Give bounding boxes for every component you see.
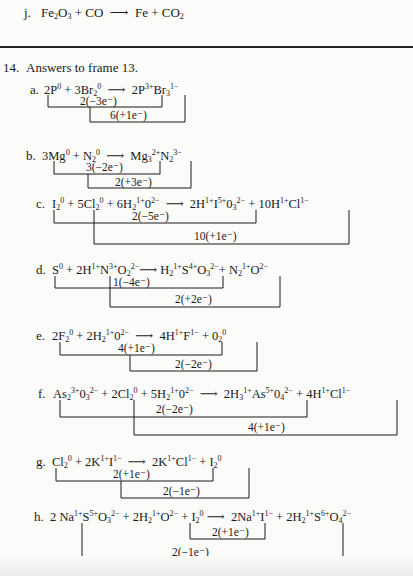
answer-g-equation: Cl20 + 2K1+I1− ⟶ 2K1+Cl1− + I20 [52, 455, 222, 469]
answer-g-bracket-1-label: 2(+1e⁻) [113, 468, 150, 480]
answer-b-bracket-1-label: 3(−2e⁻) [86, 161, 123, 173]
answer-b-bracket-2-label: 2(+3e⁻) [115, 176, 152, 188]
answer-e-bracket-1-label: 4(+1e⁻) [118, 342, 155, 354]
answer-d-bracket-2-label: 2(+2e⁻) [175, 293, 212, 305]
answer-e-equation: 2F20 + 2H21+02− ⟶ 4H1+F1− + 020 [52, 329, 226, 343]
answer-c-letter: c. [36, 197, 45, 211]
answer-h-equation: 2 Na1+S5+O32− + 2H21+O2− + I20 ⟶ 2Na1+I1… [50, 510, 351, 524]
answer-d-equation: S0 + 2H1+N3+O22−⟶ H21+S4+O32−+ N21+O2− [52, 263, 268, 277]
answer-f-letter: f. [38, 387, 46, 401]
answer-d-letter: d. [36, 263, 46, 277]
answer-c-bracket-2-label: 10(+1e⁻) [194, 230, 237, 242]
answer-f-equation: As23+032− + 2Cl20 + 5H21+02− ⟶ 2H31+As5+… [53, 387, 350, 401]
answer-e-bracket-2-label: 2(−2e⁻) [175, 358, 212, 370]
answer-a-letter: a. [30, 83, 39, 97]
answer-c-bracket-1-label: 2(−5e⁻) [132, 210, 169, 222]
page-edge [0, 556, 413, 576]
answer-g-bracket-2-label: 2(−1e⁻) [163, 485, 200, 497]
answer-e-letter: e. [36, 329, 45, 343]
answer-c-equation: I20 + 5Cl20 + 6H21+02− ⟶ 2H1+I5+032− + 1… [52, 197, 309, 211]
answer-d-bracket-1-label: 1(−4e⁻) [113, 276, 150, 288]
answer-g-letter: g. [36, 455, 46, 469]
answer-a-bracket-1-label: 2(−3e⁻) [80, 95, 117, 107]
answer-f-bracket-2-label: 4(+1e⁻) [248, 421, 285, 433]
answer-h-letter: h. [34, 510, 44, 524]
answer-a-bracket-2-label: 6(+1e⁻) [110, 109, 147, 121]
answer-b-letter: b. [26, 149, 36, 163]
answer-h-bracket-1-label: 2(+1e⁻) [212, 526, 249, 538]
answer-f-bracket-1-label: 2(−2e⁻) [156, 403, 193, 415]
